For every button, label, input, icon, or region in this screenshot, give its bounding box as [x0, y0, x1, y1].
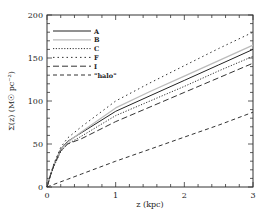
- x-tick-label: 3: [250, 191, 255, 200]
- series-lines: [47, 32, 253, 187]
- axis-ticks: [47, 15, 253, 187]
- series-line-F: [47, 32, 253, 187]
- x-axis-label: z (kpc): [136, 200, 163, 209]
- y-tick-label: 50: [33, 140, 43, 149]
- y-tick-label: 200: [28, 11, 43, 20]
- legend-label: "halo": [94, 72, 117, 80]
- legend-label: I: [94, 63, 97, 71]
- y-axis-label: Σ(z) (M☉ pc⁻²): [7, 71, 16, 131]
- legend: ABCFI"halo": [53, 28, 117, 80]
- chart: 0123050100150200 ABCFI"halo" z (kpc) Σ(z…: [0, 0, 269, 213]
- y-tick-label: 100: [28, 97, 43, 106]
- x-tick-label: 0: [44, 191, 49, 200]
- y-tick-label: 0: [38, 183, 43, 192]
- legend-label: F: [94, 54, 99, 62]
- x-tick-label: 2: [182, 191, 187, 200]
- line-chart: 0123050100150200 ABCFI"halo" z (kpc) Σ(z…: [0, 0, 269, 213]
- series-line-halo: [47, 112, 253, 187]
- x-tick-label: 1: [113, 191, 118, 200]
- series-line-A: [47, 49, 253, 187]
- plot-area-border: [47, 15, 253, 187]
- legend-label: B: [94, 36, 100, 44]
- plot-frame: [47, 15, 253, 187]
- legend-label: A: [93, 28, 100, 36]
- legend-label: C: [94, 45, 99, 53]
- series-line-I: [47, 63, 253, 187]
- series-line-B: [47, 45, 253, 187]
- y-tick-label: 150: [28, 54, 43, 63]
